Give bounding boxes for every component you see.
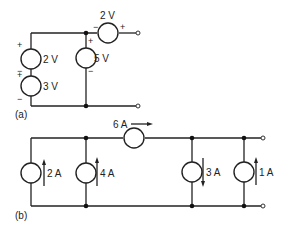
voltage-source-2v-series <box>98 23 118 43</box>
node-dot <box>190 204 195 209</box>
node-dot <box>190 136 195 141</box>
current-source-3a <box>182 162 202 182</box>
terminal <box>136 31 140 35</box>
voltage-source-2v-left <box>21 49 41 69</box>
current-source-4a <box>76 163 96 183</box>
label-a: (a) <box>15 109 27 120</box>
circuit-diagram: 2 V + − 3 V + − 5 V + − 2 V − + (a) <box>0 0 286 234</box>
node-dot <box>84 204 89 209</box>
node-dot <box>242 136 247 141</box>
label-3v: 3 V <box>43 81 58 92</box>
label-b: (b) <box>15 210 27 221</box>
polarity-plus: + <box>88 36 93 46</box>
current-source-1a <box>234 162 254 182</box>
polarity-plus: + <box>17 70 22 80</box>
voltage-source-5v <box>76 48 96 68</box>
node-dot <box>84 136 89 141</box>
label-1a: 1 A <box>259 167 274 178</box>
arrow-right-icon <box>147 122 153 126</box>
polarity-minus: − <box>93 22 98 32</box>
node-dot <box>242 204 247 209</box>
arrow-up-icon <box>42 159 46 165</box>
arrow-up-icon <box>95 157 99 163</box>
arrow-down-icon <box>201 181 205 187</box>
terminal <box>136 104 140 108</box>
label-2v-left: 2 V <box>43 54 58 65</box>
node-dot <box>84 104 89 109</box>
polarity-plus: + <box>120 22 125 32</box>
current-source-6a <box>124 128 144 148</box>
voltage-source-3v <box>21 76 41 96</box>
polarity-plus: + <box>17 40 22 50</box>
node-dot <box>84 31 89 36</box>
label-2a: 2 A <box>47 168 62 179</box>
terminal <box>261 204 265 208</box>
polarity-minus: − <box>17 94 22 104</box>
circuit-b: 2 A 4 A 6 A 3 A 1 A (b) <box>15 119 274 221</box>
current-source-2a <box>21 163 41 183</box>
label-4a: 4 A <box>100 168 115 179</box>
label-6a: 6 A <box>113 119 128 130</box>
label-5v: 5 V <box>94 53 109 64</box>
label-3a: 3 A <box>206 167 221 178</box>
arrow-up-icon <box>254 157 258 163</box>
polarity-minus: − <box>88 66 93 76</box>
circuit-a: 2 V + − 3 V + − 5 V + − 2 V − + (a) <box>15 10 140 120</box>
label-2v-series: 2 V <box>100 10 115 21</box>
terminal <box>261 136 265 140</box>
